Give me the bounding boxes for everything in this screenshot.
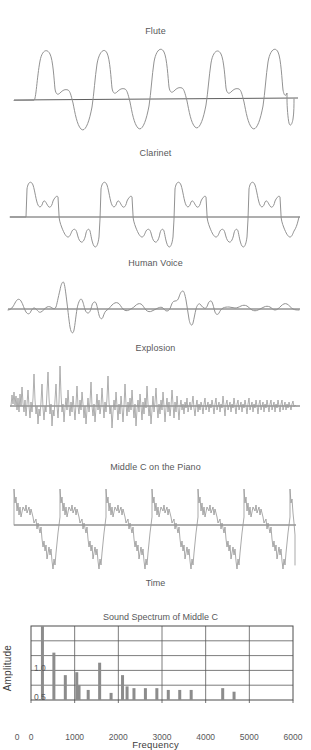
x-tick-label: 3000 xyxy=(148,732,176,742)
x-tick-label: 5000 xyxy=(235,732,263,742)
spectrum-bar xyxy=(167,690,170,700)
spectrum-bar xyxy=(98,663,101,700)
spectrum-svg xyxy=(0,623,311,723)
spectrum-chart-panel: Sound Spectrum of Middle C Amplitude Fre… xyxy=(0,612,311,743)
explosion-trace-svg xyxy=(0,354,311,454)
spectrum-plot-area: Amplitude Frequency 01000200030004000500… xyxy=(0,623,311,723)
panel-explosion: Explosion xyxy=(0,343,311,454)
waveform-human-voice xyxy=(0,269,311,347)
x-tick-label: 6000 xyxy=(279,732,307,742)
spectrum-bar xyxy=(126,686,129,700)
spectrum-bar xyxy=(155,688,158,700)
panel-human-voice: Human Voice xyxy=(0,258,311,347)
spectrum-bar xyxy=(178,690,181,700)
flute-trace-svg xyxy=(0,37,311,142)
panel-title-piano: Middle C on the Piano xyxy=(0,462,311,473)
y-tick-label: 0.5 xyxy=(34,692,46,702)
spectrum-bar xyxy=(132,688,135,700)
x-tick-label: 4000 xyxy=(192,732,220,742)
time-axis-label: Time xyxy=(0,578,311,589)
x-tick-label: 2000 xyxy=(104,732,132,742)
spectrum-bar xyxy=(52,653,55,700)
spectrum-bar xyxy=(233,692,236,700)
spectrum-bar xyxy=(110,693,113,700)
panel-title-human-voice: Human Voice xyxy=(0,258,311,269)
waveform-flute xyxy=(0,37,311,142)
panel-clarinet: Clarinet xyxy=(0,148,311,259)
human-voice-trace-svg xyxy=(0,269,311,347)
panel-title-clarinet: Clarinet xyxy=(0,148,311,159)
zero-axis-line xyxy=(14,98,298,100)
clarinet-trace-svg xyxy=(0,159,311,259)
x-tick-label: 1000 xyxy=(61,732,89,742)
waveform-clarinet xyxy=(0,159,311,259)
spectrum-bar xyxy=(221,688,224,700)
panel-title-flute: Flute xyxy=(0,26,311,37)
y-axis-title: Amplitude xyxy=(2,645,13,691)
spectrum-bar xyxy=(78,685,81,700)
spectrum-bar xyxy=(190,690,193,700)
spectrum-bar xyxy=(87,690,90,700)
y-tick-label: 1.0 xyxy=(34,663,46,673)
panel-title-explosion: Explosion xyxy=(0,343,311,354)
x-tick-label-origin: 0 xyxy=(3,732,31,742)
waveform-piano xyxy=(0,473,311,595)
spectrum-bar xyxy=(64,675,67,700)
waveform-explosion xyxy=(0,354,311,454)
spectrum-chart-title: Sound Spectrum of Middle C xyxy=(10,612,311,623)
piano-trace-svg xyxy=(0,473,311,595)
panel-flute: Flute xyxy=(0,26,311,142)
panel-piano: Middle C on the Piano xyxy=(0,462,311,595)
spectrum-bar xyxy=(121,675,124,700)
spectrum-bar xyxy=(144,688,147,700)
